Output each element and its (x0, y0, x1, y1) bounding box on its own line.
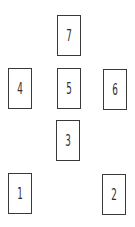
card-number: 6 (112, 82, 118, 98)
card-number: 7 (66, 28, 72, 44)
card-spread-diagram: 7 4 5 6 3 1 2 (0, 0, 135, 227)
card-number: 3 (65, 133, 71, 149)
card-number: 1 (17, 186, 23, 202)
card-position-3: 3 (56, 120, 80, 161)
card-position-4: 4 (8, 68, 32, 109)
card-number: 2 (111, 187, 117, 203)
card-position-5: 5 (57, 68, 81, 109)
card-position-1: 1 (8, 173, 32, 214)
card-position-7: 7 (57, 15, 81, 56)
card-position-2: 2 (102, 174, 126, 215)
card-position-6: 6 (103, 69, 127, 110)
card-number: 4 (17, 81, 23, 97)
card-number: 5 (66, 81, 72, 97)
